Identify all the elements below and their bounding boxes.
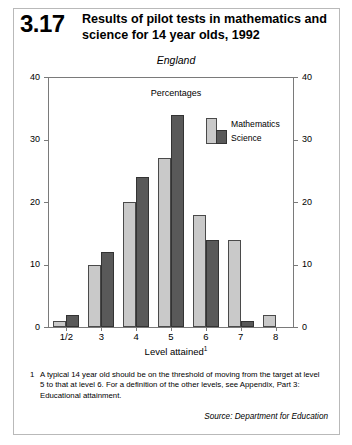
y-axis-tick-left — [44, 327, 48, 328]
source-note: Source: Department for Education — [204, 412, 328, 421]
bar-mathematics — [263, 315, 276, 328]
x-axis-tick — [66, 328, 67, 331]
title-block: 3.17 Results of pilot tests in mathemati… — [14, 9, 339, 49]
y-axis-label-right: 30 — [302, 135, 324, 144]
y-axis-label-right: 20 — [302, 198, 324, 207]
x-axis-label: 8 — [256, 331, 296, 343]
bar-group — [88, 77, 114, 327]
x-axis-tick — [136, 328, 137, 331]
bar-mathematics — [228, 240, 241, 328]
y-axis-label-left: 0 — [18, 323, 40, 332]
y-axis-tick-left — [44, 140, 48, 141]
footnote-marker: 1 — [30, 370, 40, 401]
figure-container: 3.17 Results of pilot tests in mathemati… — [0, 0, 352, 445]
bar-science — [206, 240, 219, 328]
bar-mathematics — [53, 321, 66, 327]
bar-group — [263, 77, 289, 327]
bar-mathematics — [158, 158, 171, 327]
y-axis-tick-left — [44, 77, 48, 78]
bar-mathematics — [123, 202, 136, 327]
y-axis-label-right: 40 — [302, 73, 324, 82]
bar-mathematics — [88, 265, 101, 328]
y-axis-label-left: 40 — [18, 73, 40, 82]
legend-label-mathematics: Mathematics — [231, 119, 280, 129]
figure-number: 3.17 — [14, 9, 82, 39]
bar-science — [136, 177, 149, 327]
bar-group — [123, 77, 149, 327]
bar-science — [241, 321, 254, 327]
x-axis-tick — [241, 328, 242, 331]
y-axis-tick-right — [294, 327, 298, 328]
y-axis-tick-left — [44, 202, 48, 203]
legend-label-science: Science — [231, 133, 262, 143]
page-title: Results of pilot tests in mathematics an… — [82, 9, 339, 43]
bar-group — [53, 77, 79, 327]
bar-series-layer — [49, 77, 293, 327]
y-axis-tick-right — [294, 202, 298, 203]
footnote: 1 A typical 14 year old should be on the… — [30, 370, 320, 401]
y-axis-tick-left — [44, 265, 48, 266]
x-axis-title-text: Level attained — [145, 346, 204, 357]
x-axis-tick — [276, 328, 277, 331]
legend-swatch-science — [216, 130, 227, 144]
bar-group — [158, 77, 184, 327]
y-axis-tick-right — [294, 265, 298, 266]
bar-mathematics — [193, 215, 206, 328]
x-axis-labels: 1/2345678 — [49, 331, 293, 345]
x-axis-footnote-marker: 1 — [204, 345, 208, 352]
y-axis-label-left: 30 — [18, 135, 40, 144]
x-axis-title: Level attained1 — [0, 345, 352, 357]
y-axis-tick-right — [294, 77, 298, 78]
y-axis-label-left: 20 — [18, 198, 40, 207]
bar-science — [171, 115, 184, 328]
footnote-text: A typical 14 year old should be on the t… — [40, 370, 320, 401]
chart-legend: Mathematics Science — [206, 118, 302, 152]
chart-subtitle: England — [0, 54, 352, 66]
bar-science — [66, 315, 79, 328]
y-axis-label-right: 0 — [302, 323, 324, 332]
bar-group — [193, 77, 219, 327]
x-axis-tick — [171, 328, 172, 331]
bar-science — [101, 252, 114, 327]
y-axis-label-right: 10 — [302, 260, 324, 269]
x-axis-tick — [206, 328, 207, 331]
y-axis-label-left: 10 — [18, 260, 40, 269]
x-axis-tick — [101, 328, 102, 331]
bar-group — [228, 77, 254, 327]
